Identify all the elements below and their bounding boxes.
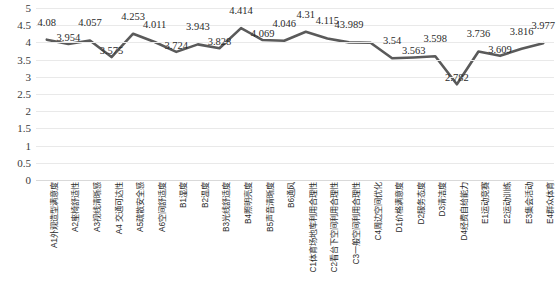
gridline xyxy=(36,25,554,26)
gridline xyxy=(36,60,554,61)
x-axis-category-label: C2看台下空间利用合理性 xyxy=(331,182,339,272)
x-axis-category-label: E1运动竞赛 xyxy=(482,182,490,224)
gridline xyxy=(36,163,554,164)
x-axis-category-label: D4经费自给能力 xyxy=(461,182,469,240)
x-axis-category-label: E3集会活动 xyxy=(526,182,534,224)
y-axis-tick: 4 xyxy=(26,37,32,48)
x-axis-category-label: C4周边空间优化 xyxy=(375,182,383,240)
gridline xyxy=(36,146,554,147)
y-axis-tick: 4.5 xyxy=(17,20,31,31)
x-axis-category-label: E2运动训练 xyxy=(504,182,512,224)
x-axis-category-label: A4 交通可达性 xyxy=(116,182,124,234)
x-axis-category-label: B5声音清晰度 xyxy=(267,182,275,232)
y-axis: 54.543.532.521.510.50 xyxy=(0,8,34,180)
y-axis-tick: 2 xyxy=(26,106,32,117)
gridline xyxy=(36,77,554,78)
plot-area xyxy=(36,8,554,180)
gridline xyxy=(36,94,554,95)
x-axis-category-label: A5疏散安全感 xyxy=(137,182,145,232)
x-axis-category-label: D1价格满意度 xyxy=(396,182,404,232)
y-axis-tick: 1.5 xyxy=(17,123,31,134)
y-axis-tick: 3.5 xyxy=(17,54,31,65)
y-axis-tick: 0 xyxy=(26,175,32,186)
x-axis-category-label: A3视线清晰感 xyxy=(94,182,102,232)
y-axis-tick: 2.5 xyxy=(17,89,31,100)
x-axis-category-label: C3一般空间利用合理性 xyxy=(353,182,361,264)
x-axis-category-label: D3清洁度 xyxy=(439,182,447,216)
x-axis-category-label: B1湿度 xyxy=(180,182,188,208)
x-axis-category-label: A6空间舒适度 xyxy=(159,182,167,232)
y-axis-tick: 0.5 xyxy=(17,157,31,168)
line-chart: 54.543.532.521.510.50 4.083.9544.0573.57… xyxy=(0,0,558,303)
gridline xyxy=(36,42,554,43)
x-axis-category-label: A1外观造型满意度 xyxy=(51,182,59,248)
x-axis: A1外观造型满意度A2座椅舒适性A3视线清晰感A4 交通可达性A5疏散安全感A6… xyxy=(36,180,554,303)
x-axis-category-label: E4群众体育 xyxy=(547,182,555,224)
y-axis-tick: 1 xyxy=(26,140,32,151)
x-axis-category-label: B3光线舒适度 xyxy=(223,182,231,232)
gridline xyxy=(36,8,554,9)
x-axis-category-label: D2服务态度 xyxy=(418,182,426,224)
x-axis-category-label: B2温度 xyxy=(202,182,210,208)
y-axis-tick: 3 xyxy=(26,71,32,82)
x-axis-category-label: B6通风 xyxy=(288,182,296,208)
x-axis-category-label: B4照明亮度 xyxy=(245,182,253,224)
gridline xyxy=(36,128,554,129)
x-axis-category-label: C1体育场地库利用合理性 xyxy=(310,182,318,272)
x-axis-category-label: A2座椅舒适性 xyxy=(72,182,80,232)
gridline xyxy=(36,111,554,112)
y-axis-tick: 5 xyxy=(26,3,32,14)
